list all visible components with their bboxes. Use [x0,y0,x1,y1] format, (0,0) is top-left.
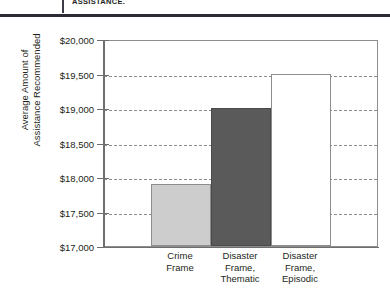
x-axis-tick-label-line: Frame [150,262,210,274]
y-axis-title-line-2: Assistance Recommended [31,0,43,185]
bar-chart: Average Amount of Assistance Recommended… [0,18,390,294]
y-axis-tick [97,247,109,248]
y-axis-tick-label: $18,000 [60,173,94,184]
caption-vertical-rule [62,0,64,13]
bar-1 [151,184,211,246]
y-axis-tick-label: $20,000 [60,35,94,46]
x-axis-tick-label: DisasterFrame,Thematic [210,250,270,285]
x-axis-tick-label-line: Disaster [210,250,270,262]
y-axis-title-line-1: Average Amount of [19,0,31,185]
y-axis-tick [97,213,109,214]
caption-header: ASSISTANCE. [0,0,390,18]
x-axis-tick-label-line: Episodic [270,273,330,285]
x-axis-tick-label-line: Crime [150,250,210,262]
y-axis-tick-label: $19,000 [60,104,94,115]
x-axis-tick-label: CrimeFrame [150,250,210,273]
caption-text: ASSISTANCE. [72,0,125,6]
plot-area [103,40,378,247]
y-axis-tick-label: $17,500 [60,207,94,218]
y-axis-tick [97,109,109,110]
y-axis-tick-label: $19,500 [60,69,94,80]
bar-3 [271,74,331,247]
header-horizontal-rule [0,14,390,18]
x-axis-labels: CrimeFrameDisasterFrame,ThematicDisaster… [103,250,378,294]
y-axis-title: Average Amount of Assistance Recommended [19,0,43,185]
y-axis-tick-label: $17,000 [60,242,94,253]
x-axis-tick-label-line: Thematic [210,273,270,285]
y-axis-tick [97,40,109,41]
gridline [104,76,377,77]
y-axis-tick [97,75,109,76]
x-axis-tick-label-line: Disaster [270,250,330,262]
x-axis-line [103,247,379,249]
x-axis-tick-label-line: Frame, [270,262,330,274]
x-axis-tick-label-line: Frame, [210,262,270,274]
bar-2 [211,108,271,246]
x-axis-tick-label: DisasterFrame,Episodic [270,250,330,285]
y-axis-tick-label: $18,500 [60,138,94,149]
y-axis-tick [97,178,109,179]
y-axis-tick [97,144,109,145]
